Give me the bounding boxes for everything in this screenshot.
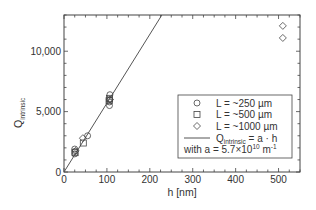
legend-label-500: L = ~500 µm	[216, 109, 272, 120]
point-diamond	[279, 34, 286, 41]
fit-line-group	[64, 14, 163, 172]
x-axis-title: h [nm]	[167, 186, 196, 198]
point-diamond	[279, 22, 286, 29]
legend-label-250: L = ~250 µm	[216, 98, 272, 109]
fit-line	[64, 14, 163, 172]
legend: L = ~250 µm L = ~500 µm L = ~1000 µm Qin…	[178, 95, 292, 158]
x-tick-label: 500	[270, 174, 287, 185]
x-tick-label: 200	[141, 174, 158, 185]
y-tick-label: 5,000	[36, 106, 61, 117]
legend-note: with a = 5.7×1010 m-1	[183, 143, 277, 155]
y-tick-label: 0	[55, 167, 61, 178]
chart: 010020030040050005,00010,000 Qintrinsic …	[0, 0, 316, 210]
x-tick-label: 0	[61, 174, 67, 185]
y-tick-label: 10,000	[30, 46, 61, 57]
x-tick-label: 400	[227, 174, 244, 185]
x-tick-label: 100	[99, 174, 116, 185]
legend-label-1000: L = ~1000 µm	[216, 121, 278, 132]
y-axis-title: Qintrinsic	[12, 97, 26, 128]
x-tick-label: 300	[184, 174, 201, 185]
